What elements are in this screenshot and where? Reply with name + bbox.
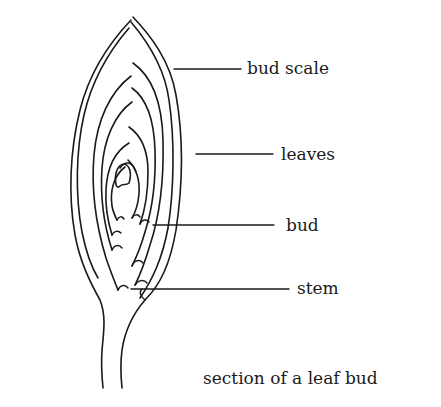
leaf-bud-diagram: bud scale leaves bud stem section of a l… [0,0,441,407]
label-bud-scale: bud scale [247,60,329,77]
leaf-bud-drawing [0,0,441,407]
label-leaves: leaves [281,146,335,163]
label-stem: stem [297,280,339,297]
bud-scale-outline [71,17,181,388]
leaves-layers [93,63,163,290]
diagram-caption: section of a leaf bud [203,370,378,387]
label-bud: bud [286,217,319,234]
